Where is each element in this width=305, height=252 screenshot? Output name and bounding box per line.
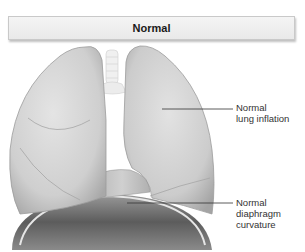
label-diaphragm-curvature: Normal diaphragm curvature <box>236 197 281 230</box>
left-lung <box>10 47 106 214</box>
label-lung-inflation: Normal lung inflation <box>236 102 289 124</box>
